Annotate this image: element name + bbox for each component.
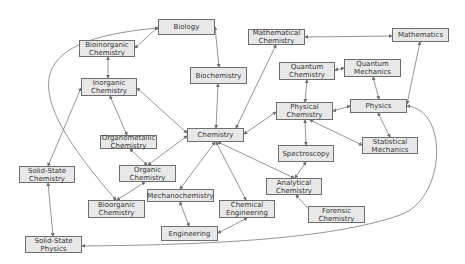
node-quantumchem[interactable]: Quantum Chemistry: [279, 62, 335, 80]
node-label: Forensic Chemistry: [319, 207, 355, 223]
node-bioorganic[interactable]: Bioorganic Chemistry: [88, 200, 145, 218]
edge-physics-statmech: [378, 113, 390, 137]
edge-quantumchem-physchem: [305, 80, 307, 102]
edge-mathchem-chemistry: [236, 45, 276, 128]
node-engineering[interactable]: Engineering: [161, 226, 218, 241]
edge-chemistry-chemeng: [216, 142, 246, 200]
edge-quantummech-physics: [373, 77, 379, 99]
edge-solidstatechem-solidstatephys: [48, 183, 53, 236]
edge-mathematics-physics: [407, 42, 420, 104]
edge-inorganic-chemistry: [137, 88, 187, 133]
node-label: Physical Chemistry: [287, 103, 323, 119]
node-label: Spectroscopy: [282, 150, 329, 158]
node-solidstatechem[interactable]: Solid-State Chemistry: [19, 166, 75, 183]
node-forensic[interactable]: Forensic Chemistry: [308, 206, 365, 223]
node-label: Quantum Mechanics: [354, 60, 391, 76]
node-mathchem[interactable]: Mathematical Chemistry: [248, 29, 305, 45]
node-label: Biochemistry: [196, 72, 242, 80]
node-organic[interactable]: Organic Chemistry: [119, 165, 176, 182]
node-label: Mechanochemistry: [147, 192, 213, 200]
edge-mathchem-mathematics: [305, 36, 392, 37]
node-chemeng[interactable]: Chemical Engineering: [219, 200, 275, 218]
edge-quantumchem-quantummech: [335, 68, 344, 70]
node-mechanochem[interactable]: Mechanochemistry: [147, 189, 214, 202]
node-spectroscopy[interactable]: Spectroscopy: [278, 145, 334, 162]
node-biology[interactable]: Biology: [158, 19, 215, 35]
edge-biochemistry-chemistry: [216, 84, 218, 128]
node-label: Mathematical Chemistry: [253, 29, 301, 45]
edge-physchem-physics: [333, 106, 350, 111]
node-solidstatephys[interactable]: Solid-State Physics: [25, 236, 82, 253]
node-quantummech[interactable]: Quantum Mechanics: [344, 59, 401, 77]
edge-physchem-spectroscopy: [305, 120, 306, 145]
node-chemistry[interactable]: Chemistry: [187, 128, 244, 142]
node-label: Solid-State Physics: [34, 237, 72, 253]
node-label: Quantum Chemistry: [289, 63, 325, 79]
node-label: Mathematics: [398, 31, 443, 39]
node-label: Chemistry: [198, 131, 234, 139]
node-label: Statistical Mechanics: [372, 138, 409, 154]
edge-physchem-statmech: [310, 120, 362, 145]
node-label: Organometallic Chemistry: [102, 134, 156, 150]
edge-physchem-chemistry: [244, 112, 276, 134]
edge-organometallic-organic: [130, 149, 147, 165]
node-bioinorganic[interactable]: Bioinorganic Chemistry: [79, 40, 135, 57]
node-statmech[interactable]: Statistical Mechanics: [362, 137, 418, 154]
node-physics[interactable]: Physics: [350, 99, 407, 113]
node-label: Engineering: [169, 230, 211, 238]
edge-inorganic-organometallic: [110, 96, 127, 135]
node-label: Analytical Chemistry: [276, 179, 312, 195]
node-label: Physics: [366, 102, 392, 110]
edge-organic-bioorganic: [117, 182, 145, 200]
node-label: Solid-State Chemistry: [28, 167, 66, 183]
edge-biology-biochemistry: [215, 27, 219, 67]
node-label: Chemical Engineering: [226, 201, 268, 217]
edge-chemeng-engineering: [218, 218, 247, 233]
node-label: Inorganic Chemistry: [91, 79, 127, 95]
node-physchem[interactable]: Physical Chemistry: [276, 102, 333, 120]
node-organometallic[interactable]: Organometallic Chemistry: [100, 135, 157, 149]
node-label: Biology: [174, 23, 200, 31]
node-inorganic[interactable]: Inorganic Chemistry: [81, 78, 137, 96]
node-label: Organic Chemistry: [130, 166, 166, 182]
node-biochemistry[interactable]: Biochemistry: [190, 67, 247, 84]
edge-inorganic-solidstatechem: [48, 88, 81, 166]
node-label: Bioinorganic Chemistry: [85, 41, 128, 57]
edge-spectroscopy-analytical: [295, 162, 306, 178]
node-label: Bioorganic Chemistry: [98, 201, 135, 217]
node-analytical[interactable]: Analytical Chemistry: [266, 178, 322, 195]
edge-chemistry-mechanochem: [180, 142, 215, 189]
edge-mechanochem-engineering: [180, 202, 189, 226]
node-mathematics[interactable]: Mathematics: [392, 28, 449, 42]
